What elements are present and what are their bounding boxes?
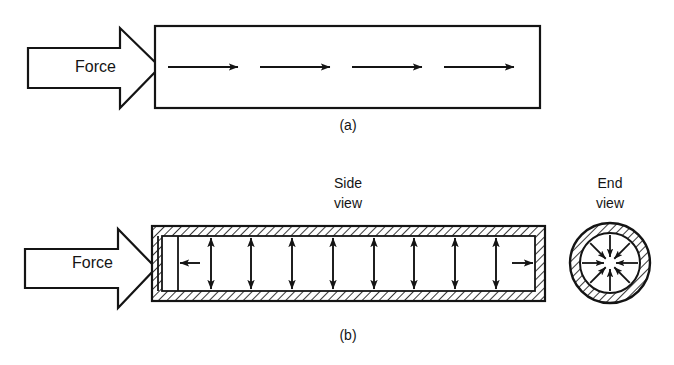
panel-b-caption: (b) — [339, 327, 356, 343]
figure-container: Force (a) Side view End view Force — [0, 0, 674, 365]
end-view-label-line1: End — [598, 175, 623, 191]
end-view-label-line2: view — [596, 195, 625, 211]
figure-canvas: Force (a) Side view End view Force — [0, 0, 674, 365]
panel-b: Side view End view Force — [25, 175, 660, 343]
force-label-b: Force — [72, 254, 113, 271]
side-view-label-line2: view — [334, 195, 363, 211]
force-label-a: Force — [75, 58, 116, 75]
end-view-annulus — [560, 213, 660, 313]
panel-a: Force (a) — [28, 26, 540, 133]
panel-a-caption: (a) — [339, 117, 356, 133]
side-view-label-line1: Side — [334, 175, 362, 191]
vertical-pressure-arrows — [211, 238, 496, 289]
